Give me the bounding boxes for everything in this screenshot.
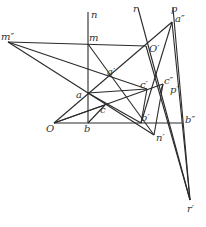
label-m: m [89, 32, 98, 43]
label-O: O [46, 123, 54, 134]
label-b2: b″ [185, 114, 195, 125]
label-b1: b′ [141, 112, 150, 123]
construction-lines [8, 8, 190, 200]
geometric-diagram: m″mnrpa″O′a′acc′c″p′Obb′b″n′r′ [0, 0, 206, 227]
label-a1: a′ [107, 66, 116, 77]
label-a2: a″ [175, 13, 185, 24]
label-b: b [84, 123, 90, 134]
label-c: c [100, 104, 106, 115]
segment-m2-c1 [8, 42, 147, 89]
label-O1: O′ [149, 43, 160, 54]
label-m2: m″ [1, 31, 14, 42]
segment-m2-O1 [8, 42, 146, 46]
label-p1: p′ [170, 84, 179, 95]
label-n1: n′ [156, 132, 165, 143]
label-r1: r′ [187, 203, 195, 214]
point-labels: m″mnrpa″O′a′acc′c″p′Obb′b″n′r′ [1, 3, 195, 214]
label-n: n [91, 9, 97, 20]
label-c1: c′ [140, 79, 149, 90]
segment-O-c [54, 105, 105, 123]
segment-a2-r1 [172, 22, 190, 200]
label-a: a [76, 89, 82, 100]
